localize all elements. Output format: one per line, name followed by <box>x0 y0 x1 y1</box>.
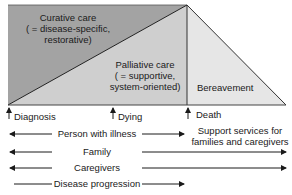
bereavement-label: Bereavement <box>197 82 254 93</box>
palliative-care-label: Palliative care ( = supportive, system-o… <box>100 59 190 92</box>
curative-care-label: Curative care ( = disease-specific, rest… <box>18 12 118 45</box>
dying-label: Dying <box>118 111 142 122</box>
curative-line-1: Curative care <box>18 12 118 23</box>
support-services-label: Support services for families and caregi… <box>190 125 290 147</box>
curative-line-3: restorative) <box>18 34 118 45</box>
row-label-person-with-illness: Person with illness <box>52 128 142 139</box>
row-label-disease-progression: Disease progression <box>52 178 142 189</box>
palliative-care-diagram: Curative care ( = disease-specific, rest… <box>0 0 292 195</box>
support-services-line-1: Support services for <box>190 125 290 136</box>
palliative-line-2: ( = supportive, <box>100 70 190 81</box>
row-label-caregivers: Caregivers <box>52 162 142 173</box>
palliative-line-3: system-oriented) <box>100 81 190 92</box>
curative-line-2: ( = disease-specific, <box>18 23 118 34</box>
row-label-family: Family <box>52 146 142 157</box>
support-services-line-2: families and caregivers <box>190 136 290 147</box>
death-label: Death <box>196 109 221 120</box>
diagnosis-label: Diagnosis <box>14 111 56 122</box>
palliative-line-1: Palliative care <box>100 59 190 70</box>
